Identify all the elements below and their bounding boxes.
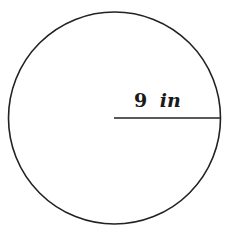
circle-diagram: 9 in — [0, 0, 243, 232]
radius-value: 9 — [134, 89, 147, 111]
radius-unit: in — [160, 89, 181, 111]
radius-label: 9 in — [134, 89, 181, 111]
